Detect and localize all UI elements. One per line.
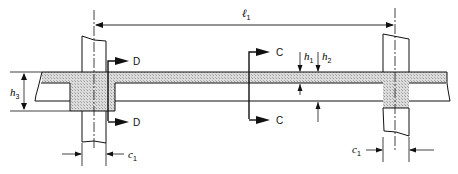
dimension-c1-left: c1: [62, 143, 137, 166]
dimension-h2: h2: [316, 50, 332, 122]
slab: [35, 72, 450, 111]
c1-left-label: c1: [128, 148, 137, 162]
flat-slab-section-diagram: ℓ1 h3 D D C C h1: [0, 0, 458, 174]
right-drop-panel: [383, 83, 409, 108]
section-c-top-label: C: [276, 47, 283, 58]
section-cut-C: C C: [249, 47, 283, 126]
span-label: ℓ1: [242, 7, 251, 21]
dimension-c1-right: c1: [352, 137, 434, 162]
c1-right-label: c1: [352, 143, 361, 157]
h1-label: h1: [304, 50, 314, 64]
section-d-bottom-label: D: [133, 117, 140, 128]
section-c-bottom-label: C: [276, 115, 283, 126]
section-d-top-label: D: [133, 56, 140, 67]
dimension-l1: ℓ1: [96, 7, 393, 25]
h2-label: h2: [322, 50, 332, 64]
h3-label: h3: [10, 86, 20, 100]
